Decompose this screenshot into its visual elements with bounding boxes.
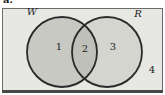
right-set-label: R [133,8,142,19]
list-item-marker: a. [3,0,13,5]
region-left-only-label: 1 [56,41,62,52]
region-outside-label: 4 [149,64,155,75]
region-intersection-label: 2 [82,43,88,54]
venn-diagram-svg: W R 1 2 3 4 [0,0,165,95]
left-set-label: W [27,6,38,17]
region-right-only-label: 3 [110,41,116,52]
venn-diagram-figure: a. W R 1 2 3 4 [0,0,165,95]
